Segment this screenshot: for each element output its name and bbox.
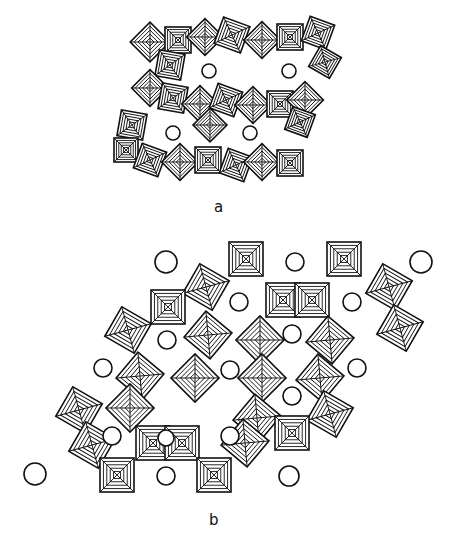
crystal-structure-figure [0,0,457,540]
octahedron-icon [309,46,342,79]
octahedron-icon [295,283,329,317]
octahedron-icon [277,24,303,50]
octahedron-icon [184,311,232,359]
octahedron-icon [183,264,229,310]
octahedron-icon [100,458,134,492]
cation-circle-icon [286,253,304,271]
cation-circle-icon [230,293,248,311]
octahedron-icon [114,138,138,162]
octahedron-icon [56,387,102,433]
panel-b-label: b [209,511,219,529]
octahedron-icon [158,83,188,113]
octahedron-icon [195,147,221,173]
octahedron-icon [244,144,281,181]
cation-circle-icon [283,325,301,343]
panel-a-framework [114,16,341,181]
octahedron-icon [117,110,147,140]
cation-circle-icon [157,467,175,485]
cation-circle-icon [221,361,239,379]
octahedron-icon [162,144,199,181]
octahedron-icon [306,316,354,364]
octahedron-icon [277,150,303,176]
octahedron-icon [105,307,151,353]
panel-a-label: a [214,198,223,216]
octahedron-icon [155,50,185,80]
octahedron-icon [301,16,334,49]
octahedron-icon [307,391,353,437]
octahedron-icon [366,264,412,310]
cation-circle-icon [410,251,432,273]
cation-circle-icon [94,359,112,377]
octahedron-icon [165,27,191,53]
cation-circle-icon [158,430,174,446]
cation-circle-icon [158,331,176,349]
octahedron-icon [197,458,231,492]
cation-circle-icon [202,64,216,78]
cation-circle-icon [348,359,366,377]
cation-circle-icon [343,293,361,311]
octahedron-icon [229,242,263,276]
octahedron-icon [214,17,250,53]
octahedron-icon [238,354,286,402]
octahedron-icon [296,354,344,402]
cation-circle-icon [166,126,180,140]
cation-circle-icon [155,251,177,273]
cation-circle-icon [24,463,46,485]
octahedron-icon [267,91,293,117]
cation-circle-icon [282,64,296,78]
octahedron-icon [151,290,185,324]
cation-circle-icon [243,126,257,140]
cation-circle-icon [103,427,121,445]
panel-b-framework [24,242,432,492]
cation-circle-icon [221,427,239,445]
octahedron-icon [327,242,361,276]
cation-circle-icon [279,466,299,486]
octahedron-icon [171,354,219,402]
octahedron-icon [377,305,423,351]
cation-circle-icon [283,387,301,405]
octahedron-icon [275,416,309,450]
